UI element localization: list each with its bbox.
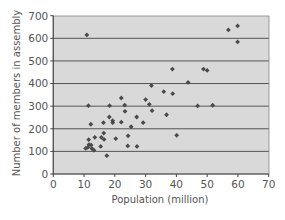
y-tick-label: 0	[42, 168, 49, 180]
y-tick-label: 600	[28, 32, 48, 44]
x-tick-label: 10	[77, 178, 90, 190]
x-axis-title: Population (million)	[112, 194, 209, 205]
scatter-chart: 010203040506070 0100200300400500600700 P…	[0, 0, 285, 220]
x-tick-label: 50	[200, 178, 213, 190]
y-tick-label: 500	[28, 55, 48, 67]
x-tick-label: 40	[170, 178, 183, 190]
y-axis-ticks: 0100200300400500600700	[28, 10, 53, 180]
x-tick-label: 20	[108, 178, 121, 190]
x-axis-ticks: 010203040506070	[50, 174, 275, 190]
x-tick-label: 70	[262, 178, 275, 190]
y-tick-label: 700	[28, 10, 48, 22]
x-tick-label: 0	[50, 178, 57, 190]
y-tick-label: 200	[28, 123, 48, 135]
y-axis-title: Number of members in assembly	[11, 10, 22, 177]
x-tick-label: 30	[139, 178, 152, 190]
y-tick-label: 300	[28, 100, 48, 112]
x-tick-label: 60	[231, 178, 244, 190]
y-tick-label: 400	[28, 77, 48, 89]
y-tick-label: 100	[28, 145, 48, 157]
